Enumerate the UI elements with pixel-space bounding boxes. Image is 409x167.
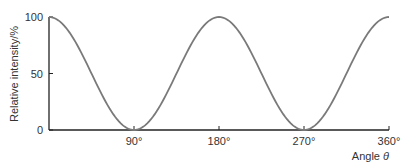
x-tick-label: 360°: [378, 135, 401, 147]
y-axis-label: Relative intensity/%: [8, 26, 20, 122]
chart-svg: 05010090°180°270°360° Relative intensity…: [0, 0, 409, 167]
intensity-curve: [49, 17, 389, 130]
x-tick-label: 180°: [208, 135, 231, 147]
x-tick-label: 90°: [126, 135, 143, 147]
y-tick-label: 0: [37, 124, 43, 136]
data-series: [49, 17, 389, 130]
x-axis-label: Angle θ: [352, 150, 389, 162]
y-tick-label: 50: [31, 68, 43, 80]
intensity-chart: 05010090°180°270°360° Relative intensity…: [0, 0, 409, 167]
y-tick-label: 100: [25, 11, 43, 23]
x-tick-label: 270°: [293, 135, 316, 147]
